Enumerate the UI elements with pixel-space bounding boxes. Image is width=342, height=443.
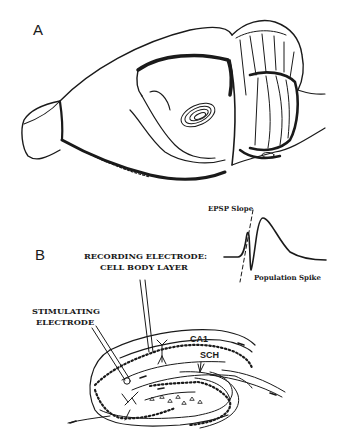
epsp-slope-line <box>240 210 253 282</box>
field-potential-trace <box>224 218 326 270</box>
hippocampal-slice-illustration <box>0 0 342 443</box>
